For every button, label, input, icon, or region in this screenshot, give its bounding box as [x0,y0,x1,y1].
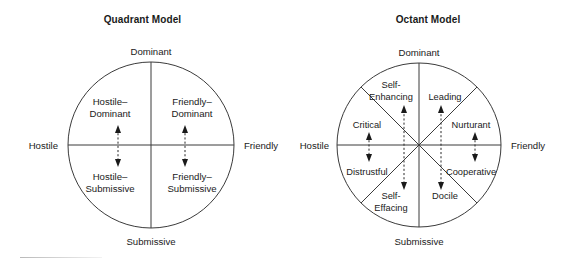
quadrant-model-diagram: Dominant Submissive Hostile Friendly Hos… [0,0,285,266]
bottom-scan-artifact-rule [20,257,102,258]
panel-quadrant-model: Quadrant Model Dominant Submissive Hosti… [0,0,285,266]
sector-label-line2: Enhancing [369,92,413,102]
sector-label-line1: Cooperative [446,167,496,177]
quadrant-arrow-left [115,125,121,167]
interpersonal-circumplex-figure: Quadrant Model Dominant Submissive Hosti… [0,0,571,266]
sector-label-line1: Self- [381,191,400,201]
octant-arrow-nurturant-cooperative [472,132,478,162]
sector-label-line1: Friendly– [172,96,212,107]
sector-label-line2: Submissive [167,183,216,194]
quadrant-sector-friendly-submissive: Friendly– Submissive [167,171,216,194]
sector-label-line2: Effacing [374,203,407,213]
sector-label-line1: Distrustful [346,167,387,177]
octant-arrow-critical-distrustful [366,132,372,162]
octant-model-diagram: Dominant Submissive Hostile Friendly Sel… [285,0,571,266]
sector-label-line2: Dominant [171,108,212,119]
octant-axis-label-left: Hostile [300,140,329,151]
octant-sector-self-enhancing: Self- Enhancing [369,80,413,102]
sector-label-line1: Hostile– [93,171,128,182]
sector-label-line1: Self- [381,80,400,90]
octant-sector-self-effacing: Self- Effacing [374,191,407,213]
octant-sector-critical: Critical [353,120,381,130]
octant-sector-distrustful: Distrustful [346,167,387,177]
quadrant-axis-label-top: Dominant [130,46,171,57]
sector-label-line1: Leading [428,92,461,102]
octant-sector-nurturant: Nurturant [452,120,491,130]
octant-arrow-leading-docile [438,105,444,190]
sector-label-line1: Critical [353,120,381,130]
sector-label-line1: Docile [432,191,458,201]
octant-arrow-self-enhancing-effacing [401,105,407,190]
quadrant-sector-hostile-dominant: Hostile– Dominant [89,96,130,119]
octant-sector-docile: Docile [432,191,458,201]
quadrant-arrow-right [182,125,188,167]
quadrant-sector-hostile-submissive: Hostile– Submissive [85,171,134,194]
panel-octant-model: Octant Model Dominant Submissive Hostile… [285,0,571,266]
octant-sector-cooperative: Cooperative [446,167,496,177]
quadrant-axis-label-left: Hostile [29,140,58,151]
octant-axis-label-right: Friendly [511,140,545,151]
sector-label-line2: Submissive [85,183,134,194]
octant-sector-leading: Leading [428,92,461,102]
sector-label-line2: Dominant [89,108,130,119]
quadrant-axis-label-bottom: Submissive [126,236,175,247]
sector-label-line1: Friendly– [172,171,212,182]
sector-label-line1: Hostile– [93,96,128,107]
quadrant-sector-friendly-dominant: Friendly– Dominant [171,96,212,119]
octant-axis-label-top: Dominant [398,47,439,58]
sector-label-line1: Nurturant [452,120,491,130]
quadrant-axis-label-right: Friendly [244,140,278,151]
octant-axis-label-bottom: Submissive [394,236,443,247]
